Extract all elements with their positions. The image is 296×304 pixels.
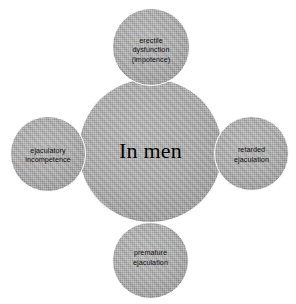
node-label-premature-ejaculation: prematureejaculation <box>130 248 171 267</box>
node-label-retarded-ejaculation: retardedejaculation <box>231 145 272 164</box>
diagram-node-retarded-ejaculation: retardedejaculation <box>214 116 289 191</box>
node-label-erectile-dysfunction: erectiledysfunction(impotence) <box>129 36 174 65</box>
hub-label: In men <box>119 140 182 162</box>
radial-diagram: In men erectiledysfunction(impotence) ej… <box>0 0 296 304</box>
node-label-ejaculatory-incompetence: ejaculatoryincompetence <box>22 146 73 165</box>
diagram-node-ejaculatory-incompetence: ejaculatoryincompetence <box>10 116 86 192</box>
diagram-node-premature-ejaculation: prematureejaculation <box>112 222 189 299</box>
diagram-hub-node: In men <box>78 78 223 223</box>
diagram-node-erectile-dysfunction: erectiledysfunction(impotence) <box>112 8 190 86</box>
